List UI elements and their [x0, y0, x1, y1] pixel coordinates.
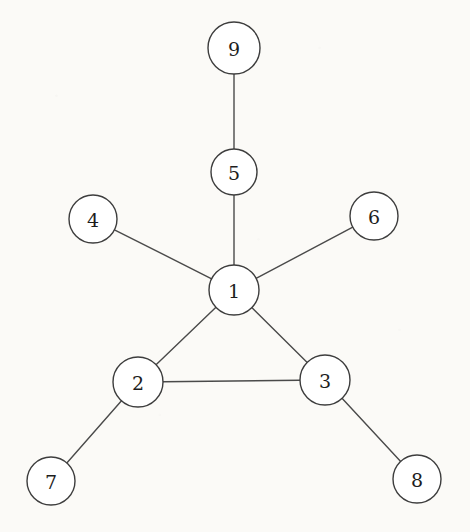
node-label-8: 8 — [411, 469, 423, 491]
node-label-4: 4 — [87, 209, 99, 231]
graph-edge-2-7 — [67, 401, 122, 463]
graph-edge-2-3 — [163, 380, 300, 381]
graph-svg: 123456789 — [0, 0, 470, 532]
graph-node-8[interactable]: 8 — [393, 455, 441, 503]
node-label-7: 7 — [45, 471, 57, 493]
node-label-9: 9 — [228, 38, 240, 60]
graph-diagram-canvas: 123456789 — [0, 0, 470, 532]
node-label-3: 3 — [319, 370, 331, 392]
graph-edge-1-2 — [156, 307, 216, 364]
graph-node-5[interactable]: 5 — [211, 149, 257, 195]
graph-node-2[interactable]: 2 — [113, 357, 163, 407]
graph-node-6[interactable]: 6 — [350, 192, 398, 240]
graph-node-1[interactable]: 1 — [209, 265, 259, 315]
graph-edge-1-3 — [252, 308, 307, 363]
graph-node-7[interactable]: 7 — [27, 457, 75, 505]
node-label-1: 1 — [228, 280, 240, 302]
graph-edge-4-1 — [114, 230, 211, 279]
node-label-5: 5 — [228, 162, 240, 184]
graph-edge-3-8 — [342, 398, 401, 461]
graph-edge-6-1 — [256, 227, 353, 278]
node-label-2: 2 — [132, 372, 144, 394]
node-label-6: 6 — [368, 206, 380, 228]
graph-node-4[interactable]: 4 — [69, 195, 117, 243]
graph-node-9[interactable]: 9 — [208, 22, 260, 74]
graph-node-3[interactable]: 3 — [300, 355, 350, 405]
